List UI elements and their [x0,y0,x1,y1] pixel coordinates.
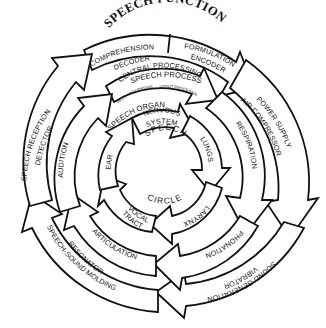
speech-function-diagram: SPEECH FUNCTION COMPREHENSION DECODER FO… [0,0,326,328]
center-label-circle: CIRCLE [146,192,184,206]
arrow-ear [98,118,134,190]
arrow-larynx [150,182,222,244]
diagram-title: SPEECH FUNCTION [101,0,229,30]
